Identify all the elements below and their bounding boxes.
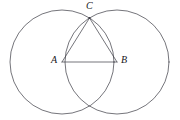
- vertex-dot-C: [89, 17, 91, 19]
- vertex-label-B: B: [121, 55, 127, 65]
- geometry-figure: C A B: [0, 0, 180, 120]
- vertex-label-A: A: [51, 55, 57, 65]
- geometry-canvas: [0, 0, 180, 120]
- segment-CB: [90, 18, 118, 62]
- segment-AC: [62, 18, 90, 62]
- vertex-label-C: C: [86, 1, 93, 11]
